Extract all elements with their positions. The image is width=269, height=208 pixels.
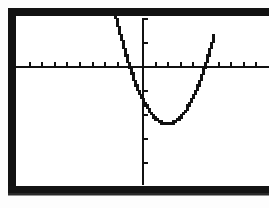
graph-viewport[interactable] [16,16,269,186]
parabola-curve [114,16,215,125]
screen-frame-left [8,8,16,194]
parabola-plot [16,16,269,186]
screen-frame-top [8,8,269,16]
screen-frame-bottom-shade [8,193,269,196]
y-axis-ticks [144,18,148,164]
calculator-screenshot [0,0,269,208]
